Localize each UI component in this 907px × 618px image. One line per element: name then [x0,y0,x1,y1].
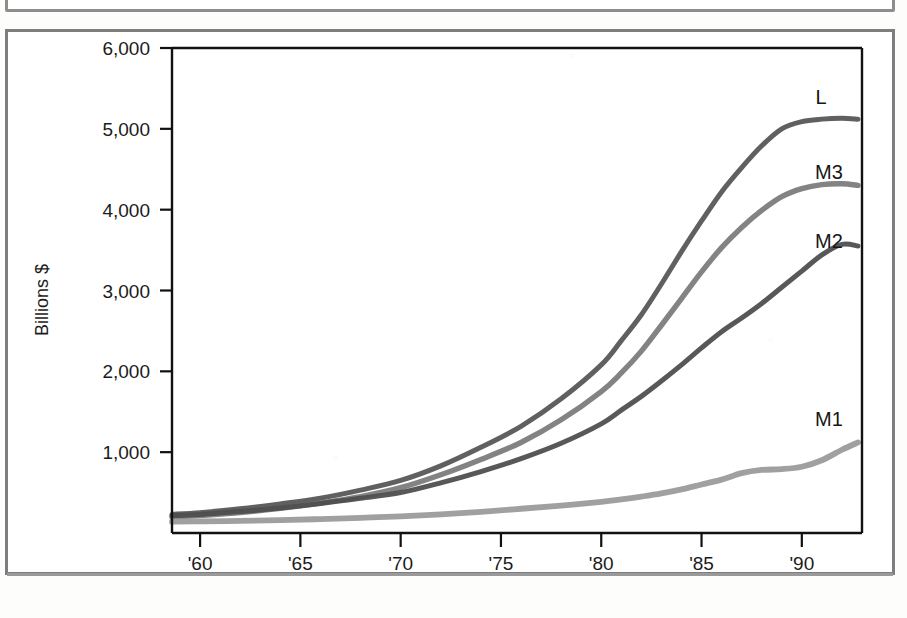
series-layer [172,118,858,521]
series-label-m1: M1 [815,408,843,430]
y-tick-label: 4,000 [102,200,150,221]
series-line-m2 [172,244,858,516]
x-tick-label: '85 [689,553,714,574]
x-axis-ticks: '60'65'70'75'80'85'90 [188,533,815,574]
series-line-l [172,118,858,514]
y-tick-label: 1,000 [102,442,150,463]
x-tick-label: '80 [589,553,614,574]
y-axis-ticks: 1,0002,0003,0004,0005,0006,000 [102,38,172,463]
scanned-figure-page: 1,0002,0003,0004,0005,0006,000 '60'65'70… [0,0,907,618]
y-axis-title: Billions $ [32,264,52,336]
series-label-m2: M2 [815,230,843,252]
x-tick-label: '60 [188,553,213,574]
y-tick-label: 3,000 [102,281,150,302]
series-label-m3: M3 [815,161,843,183]
line-chart: 1,0002,0003,0004,0005,0006,000 '60'65'70… [0,0,907,618]
series-line-m3 [172,184,858,517]
x-tick-label: '90 [789,553,814,574]
series-label-l: L [815,86,826,108]
x-tick-label: '75 [489,553,514,574]
y-tick-label: 2,000 [102,361,150,382]
x-tick-label: '70 [388,553,413,574]
y-tick-label: 6,000 [102,38,150,59]
x-tick-label: '65 [288,553,313,574]
y-tick-label: 5,000 [102,119,150,140]
